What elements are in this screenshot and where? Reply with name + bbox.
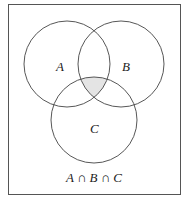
label-c: C bbox=[90, 121, 99, 136]
venn-diagram: A B C A ∩ B ∩ C bbox=[0, 0, 185, 199]
frame bbox=[9, 5, 181, 195]
label-b: B bbox=[122, 59, 130, 74]
caption: A ∩ B ∩ C bbox=[65, 170, 122, 185]
label-a: A bbox=[55, 59, 64, 74]
